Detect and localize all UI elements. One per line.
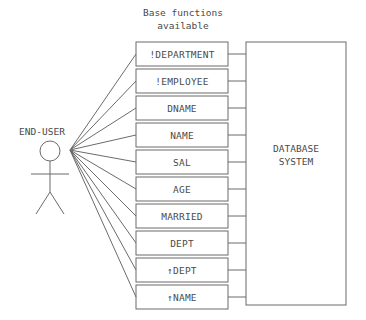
stick-figure-actor-icon — [31, 141, 69, 214]
connector-line-10 — [70, 150, 136, 297]
function-box-1[interactable] — [136, 42, 228, 66]
actor-label: END-USER — [4, 126, 80, 137]
function-box-6[interactable] — [136, 177, 228, 201]
connector-line-4 — [70, 135, 136, 150]
function-boxes — [136, 42, 228, 309]
diagram-title: Base functions available — [110, 6, 256, 32]
actor-left-leg-icon — [36, 192, 50, 214]
actor-right-leg-icon — [50, 192, 64, 214]
function-to-system-connectors — [228, 54, 246, 297]
function-box-3[interactable] — [136, 96, 228, 120]
connector-line-9 — [70, 150, 136, 270]
base-functions-diagram: Base functions available END-USER DATABA… — [0, 0, 366, 320]
function-box-8[interactable] — [136, 231, 228, 255]
database-system-label: DATABASE SYSTEM — [246, 142, 346, 168]
function-box-10[interactable] — [136, 285, 228, 309]
actor-to-function-connectors — [70, 54, 136, 297]
connector-line-2 — [70, 81, 136, 150]
connector-line-8 — [70, 150, 136, 243]
function-box-2[interactable] — [136, 69, 228, 93]
function-box-5[interactable] — [136, 150, 228, 174]
database-system-box[interactable] — [246, 42, 346, 305]
function-box-4[interactable] — [136, 123, 228, 147]
actor-head-icon — [40, 141, 60, 161]
function-box-7[interactable] — [136, 204, 228, 228]
function-box-9[interactable] — [136, 258, 228, 282]
